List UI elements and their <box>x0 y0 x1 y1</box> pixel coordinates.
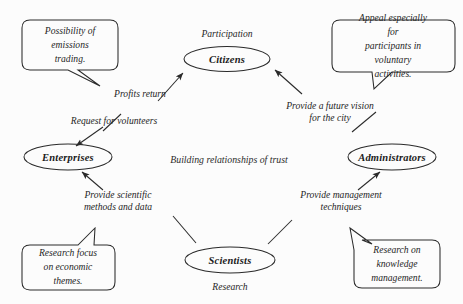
edge-label-provide-future-vision: Provide a future vision for the city <box>286 100 373 123</box>
edge-citizens-to-enterprises <box>76 127 103 146</box>
center-label-building-trust: Building relationships of trust <box>170 154 287 165</box>
node-label-enterprises[interactable]: Enterprises <box>42 152 94 163</box>
callout-text-emissions-trading[interactable]: Possibility of emissions trading. <box>45 24 95 66</box>
role-label-research: Research <box>212 281 247 292</box>
edge-label-profits-return: Profits return <box>114 88 166 100</box>
callout-text-economic-themes[interactable]: Research focus on economic themes. <box>39 246 97 288</box>
callout-text-knowledge-management[interactable]: Research on knowledge management. <box>371 243 422 285</box>
edge-label-request-for-volunteers: Request for volunteers <box>71 115 157 127</box>
diagram-canvas: Citizens Enterprises Administrators Scie… <box>0 0 463 304</box>
edge-label-provide-management-techniques: Provide management techniques <box>300 189 381 212</box>
node-label-citizens[interactable]: Citizens <box>209 54 245 65</box>
role-label-participation: Participation <box>201 28 252 39</box>
node-label-administrators[interactable]: Administrators <box>358 152 426 163</box>
callout-text-voluntary-activities[interactable]: Appeal especially for participants in vo… <box>358 11 428 81</box>
node-label-scientists[interactable]: Scientists <box>209 255 252 266</box>
edge-label-provide-scientific-methods: Provide scientific methods and data <box>84 189 152 212</box>
